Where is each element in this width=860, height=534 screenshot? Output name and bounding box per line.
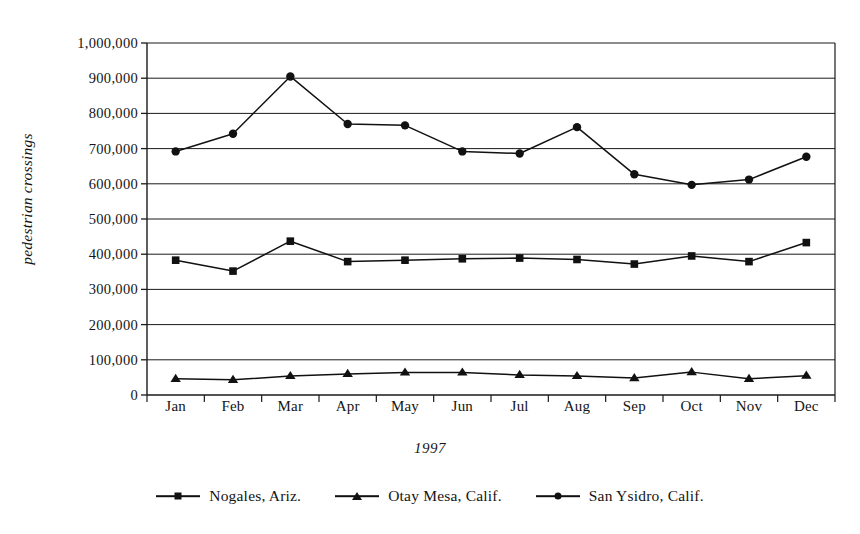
data-point <box>572 371 582 379</box>
legend-swatch-circle-icon <box>536 490 580 502</box>
data-point <box>457 367 467 375</box>
y-tick-label: 400,000 <box>89 246 138 263</box>
data-point <box>801 371 811 379</box>
data-point <box>631 260 639 268</box>
series-line <box>176 76 807 184</box>
data-point <box>342 369 352 377</box>
series-san-ysidro-calif <box>171 72 810 189</box>
legend-item: Otay Mesa, Calif. <box>335 487 502 505</box>
data-point <box>573 256 581 264</box>
x-tick-label: Jun <box>452 398 473 415</box>
data-point <box>514 370 524 378</box>
data-point <box>401 121 409 129</box>
data-point <box>515 149 523 157</box>
data-point <box>803 239 811 247</box>
series-line <box>176 372 807 380</box>
legend-swatch-square-icon <box>156 490 200 502</box>
data-point <box>459 255 467 263</box>
y-tick-label: 500,000 <box>89 211 138 228</box>
data-point <box>745 258 753 266</box>
x-tick-label: Dec <box>794 398 819 415</box>
data-point <box>172 256 180 264</box>
data-point <box>285 371 295 379</box>
data-point <box>516 254 524 262</box>
x-tick-label: May <box>391 398 419 415</box>
data-point <box>343 120 351 128</box>
x-tick-label: Apr <box>336 398 360 415</box>
y-tick-label: 700,000 <box>89 140 138 157</box>
x-tick-label: Mar <box>278 398 304 415</box>
x-tick-label: Aug <box>564 398 590 415</box>
pedestrian-crossings-line-chart: 0100,000200,000300,000400,000500,000600,… <box>0 0 860 534</box>
y-tick-label: 300,000 <box>89 281 138 298</box>
data-point <box>400 367 410 375</box>
y-tick-label: 900,000 <box>89 70 138 87</box>
legend-label: San Ysidro, Calif. <box>589 487 704 505</box>
data-point <box>287 237 295 245</box>
data-point <box>573 123 581 131</box>
data-point <box>458 147 466 155</box>
y-tick-label: 200,000 <box>89 316 138 333</box>
data-point <box>344 258 352 266</box>
data-point <box>286 72 294 80</box>
y-tick-label: 600,000 <box>89 175 138 192</box>
series-nogales-ariz <box>172 237 810 275</box>
data-point <box>630 170 638 178</box>
legend-label: Nogales, Ariz. <box>209 487 301 505</box>
data-point <box>745 175 753 183</box>
y-tick-label: 0 <box>130 387 138 404</box>
legend-swatch-triangle-icon <box>335 490 379 502</box>
legend-marker-circle-icon <box>554 493 561 500</box>
x-tick-label: Oct <box>681 398 703 415</box>
legend-label: Otay Mesa, Calif. <box>388 487 502 505</box>
data-point <box>688 252 696 260</box>
data-point <box>171 147 179 155</box>
legend-item: San Ysidro, Calif. <box>536 487 704 505</box>
legend-marker-square-icon <box>175 493 182 500</box>
data-point <box>687 181 695 189</box>
data-point <box>802 152 810 160</box>
y-tick-label: 1,000,000 <box>77 35 138 52</box>
legend-marker-triangle-icon <box>352 492 362 500</box>
y-tick-label: 100,000 <box>89 351 138 368</box>
x-tick-label: Nov <box>736 398 762 415</box>
data-point <box>229 267 237 275</box>
data-point <box>401 256 409 264</box>
x-tick-label: Sep <box>623 398 646 415</box>
data-point <box>686 367 696 375</box>
legend-item: Nogales, Ariz. <box>156 487 301 505</box>
x-tick-label: Jan <box>165 398 186 415</box>
series-otay-mesa-calif <box>170 367 811 383</box>
chart-legend: Nogales, Ariz.Otay Mesa, Calif.San Ysidr… <box>0 487 860 505</box>
y-tick-label: 800,000 <box>89 105 138 122</box>
x-tick-label: Jul <box>511 398 529 415</box>
y-axis-title: pedestrian crossings <box>18 99 36 299</box>
data-point <box>170 374 180 382</box>
series-line <box>176 241 807 271</box>
x-axis-title: 1997 <box>0 440 860 457</box>
x-tick-label: Feb <box>221 398 244 415</box>
data-point <box>229 130 237 138</box>
